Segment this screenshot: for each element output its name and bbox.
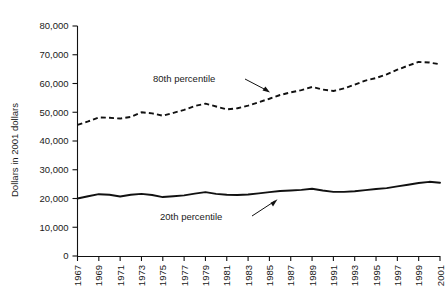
y-axis-tick-label: 80,000 [39, 20, 68, 31]
x-axis-tick-label: 1975 [157, 265, 168, 286]
x-axis-tick-label: 1985 [264, 265, 275, 286]
chart-container: Dollars in 2001 dollars 010,00020,00030,… [0, 0, 448, 300]
x-axis-tick-label: 1987 [285, 265, 296, 286]
x-axis-tick-label: 1977 [179, 265, 190, 286]
y-axis-tick-label: 10,000 [39, 222, 68, 233]
x-axis-tick-label: 1999 [413, 265, 424, 286]
y-axis-tick-label: 70,000 [39, 49, 68, 60]
y-axis-tick-label: 20,000 [39, 193, 68, 204]
y-axis-title-text: Dollars in 2001 dollars [9, 103, 20, 197]
annotation-20th-percentile-label: 20th percentile [160, 211, 222, 222]
axes [78, 26, 441, 257]
y-axis-tick-label: 60,000 [39, 78, 68, 89]
series-line-20th-percentile [78, 182, 441, 199]
annotation-20th-percentile-arrow-head [271, 199, 278, 206]
x-axis-tick-labels: 1967196919711973197519771979198119831985… [72, 265, 446, 286]
y-axis-tick-label: 50,000 [39, 107, 68, 118]
x-axis-tick-label: 1983 [243, 265, 254, 286]
x-axis-tick-label: 2001 [435, 265, 446, 286]
x-axis-tick-label: 1981 [221, 265, 232, 286]
line-chart: Dollars in 2001 dollars 010,00020,00030,… [0, 0, 448, 300]
y-axis-title: Dollars in 2001 dollars [9, 103, 20, 197]
y-axis-ticks [73, 26, 78, 256]
y-axis-tick-label: 30,000 [39, 164, 68, 175]
x-axis-tick-label: 1993 [349, 265, 360, 286]
x-axis-tick-label: 1979 [200, 265, 211, 286]
x-axis-tick-label: 1989 [307, 265, 318, 286]
x-axis-tick-label: 1995 [371, 265, 382, 286]
annotation-80th-percentile-arrow-head [263, 87, 271, 93]
x-axis-tick-label: 1967 [72, 265, 83, 286]
annotation-80th-percentile: 80th percentile [153, 73, 270, 93]
annotation-20th-percentile: 20th percentile [160, 199, 278, 222]
x-axis-tick-label: 1991 [328, 265, 339, 286]
annotation-80th-percentile-label: 80th percentile [153, 73, 215, 84]
y-axis-tick-label: 0 [63, 250, 68, 261]
x-axis-tick-label: 1971 [115, 265, 126, 286]
series-line-80th-percentile [78, 62, 441, 125]
x-axis-tick-label: 1969 [93, 265, 104, 286]
y-axis-tick-labels: 010,00020,00030,00040,00050,00060,00070,… [39, 20, 68, 261]
y-axis-tick-label: 40,000 [39, 135, 68, 146]
x-axis-tick-label: 1973 [136, 265, 147, 286]
x-axis-tick-label: 1997 [392, 265, 403, 286]
